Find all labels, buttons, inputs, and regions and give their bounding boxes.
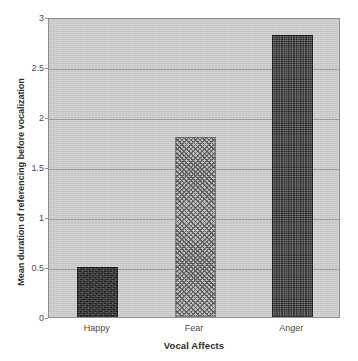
x-tick-label: Happy bbox=[48, 322, 145, 334]
plot-area bbox=[48, 18, 340, 318]
x-axis-tick-labels: HappyFearAnger bbox=[48, 322, 340, 336]
bar-fear bbox=[175, 137, 216, 317]
y-tick-label: 0 bbox=[24, 313, 44, 323]
y-tick-label: 0.5 bbox=[24, 263, 44, 273]
y-tick-label: 2 bbox=[24, 113, 44, 123]
y-tick-label: 1.5 bbox=[24, 163, 44, 173]
x-tick-label: Anger bbox=[243, 322, 340, 334]
y-tick-label: 1 bbox=[24, 213, 44, 223]
x-tick-label: Fear bbox=[145, 322, 242, 334]
y-axis-tick-labels: 00.511.522.53 bbox=[24, 18, 44, 318]
bar-happy bbox=[77, 267, 118, 317]
x-axis-title: Vocal Affects bbox=[48, 340, 340, 351]
y-tick-label: 3 bbox=[24, 13, 44, 23]
y-tick-label: 2.5 bbox=[24, 63, 44, 73]
y-tick-mark bbox=[45, 318, 48, 319]
bar-anger bbox=[272, 35, 313, 317]
bar-chart-figure: Mean duration of referencing before voca… bbox=[0, 0, 358, 361]
